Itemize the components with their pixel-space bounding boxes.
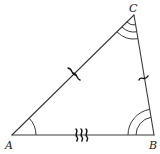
angle-c-arc-1 [127, 22, 136, 25]
angle-a-arc [29, 118, 36, 135]
vertex-label-a: A [4, 139, 13, 152]
side-bc-tick-mark [139, 76, 148, 80]
side-ac [12, 15, 134, 135]
angle-b-arc-outer [128, 109, 150, 135]
vertex-label-c: C [129, 2, 138, 15]
vertex-label-b: B [148, 139, 157, 152]
angle-c-arc-2 [122, 27, 137, 32]
triangle-diagram: A B C [0, 0, 160, 154]
side-bc [134, 15, 154, 135]
angle-b-arc-inner [136, 117, 151, 135]
angle-c-arc-3 [117, 32, 138, 39]
